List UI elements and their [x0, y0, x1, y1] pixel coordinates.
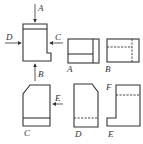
view-e-label: E: [107, 129, 114, 139]
view-a: A: [66, 39, 99, 74]
arrow-a-label: A: [37, 3, 44, 13]
view-f-label: F: [105, 82, 112, 92]
arrow-e-label: E: [54, 93, 61, 103]
arrow-c: C: [50, 32, 63, 43]
arrow-b-label: B: [38, 69, 44, 79]
main-solid: [23, 24, 51, 61]
arrow-d: D: [5, 32, 21, 43]
view-d-label: D: [74, 129, 82, 139]
view-a-label: A: [66, 64, 73, 74]
view-b: B: [105, 39, 139, 74]
view-c-label: C: [24, 128, 31, 138]
arrow-d-label: D: [5, 32, 13, 42]
view-b-label: B: [105, 64, 111, 74]
arrow-c-label: C: [55, 32, 62, 42]
projection-diagram: A D C B A B C E D: [0, 0, 143, 144]
arrow-a: A: [35, 3, 44, 22]
arrow-e: E: [53, 93, 63, 104]
arrow-b: B: [35, 64, 44, 81]
view-e: F E: [105, 82, 140, 139]
view-d: D: [74, 84, 98, 139]
view-c: C: [23, 85, 50, 138]
